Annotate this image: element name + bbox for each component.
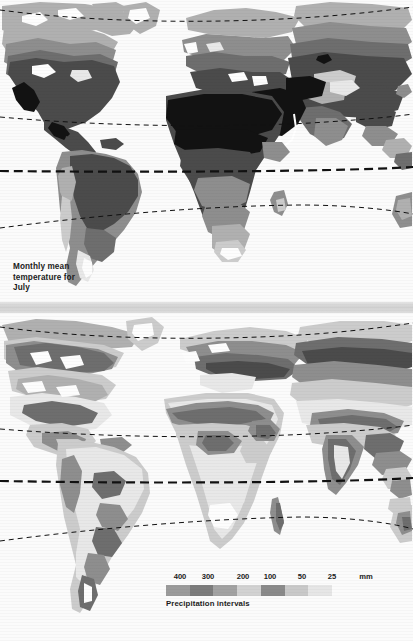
legend-label-25: 25 [328,572,336,581]
map-panel-temperature: Monthly mean temperature for July [0,0,413,302]
caption-temperature-map: Monthly mean temperature for July [13,262,75,294]
legend-swatch-3 [237,585,261,596]
legend-swatch-5 [285,585,309,596]
legend-scale-labels: 400 300 200 100 50 25 mm [166,572,366,584]
legend-unit-mm: mm [359,572,373,581]
legend-swatch-bar [166,585,332,596]
precipitation-legend: 400 300 200 100 50 25 mm Precipitation i… [166,572,366,608]
legend-swatch-0 [166,585,190,596]
legend-swatch-1 [190,585,214,596]
legend-label-200: 200 [237,572,250,581]
legend-label-300: 300 [202,572,215,581]
legend-swatch-6 [308,585,332,596]
legend-label-100: 100 [264,572,277,581]
panel-separator-band [0,302,413,313]
legend-label-50: 50 [298,572,306,581]
world-map-temperature [0,0,413,302]
legend-title: Precipitation intervals [166,599,366,608]
legend-swatch-4 [261,585,285,596]
legend-label-400: 400 [174,572,187,581]
atlas-page: Monthly mean temperature for July [0,0,413,641]
legend-swatch-2 [213,585,237,596]
